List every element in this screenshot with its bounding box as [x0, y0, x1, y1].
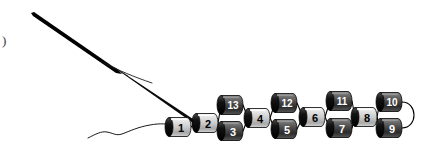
nodes-layer: 12133412561178109	[0, 0, 425, 151]
node-cap	[271, 120, 279, 139]
node-12[interactable]: 12	[271, 94, 297, 113]
node-cap	[192, 114, 200, 133]
node-cap	[376, 93, 384, 112]
node-cap	[351, 108, 359, 127]
node-7[interactable]: 7	[326, 119, 352, 138]
node-cap	[165, 118, 173, 137]
node-2[interactable]: 2	[192, 114, 218, 133]
polymer-chain-diagram: )	[0, 0, 425, 151]
node-13[interactable]: 13	[217, 96, 243, 115]
node-cap	[376, 119, 384, 138]
node-cap	[244, 109, 252, 128]
node-cap	[299, 108, 307, 127]
node-11[interactable]: 11	[326, 92, 352, 111]
node-cap	[217, 122, 225, 141]
node-10[interactable]: 10	[376, 93, 402, 112]
node-shapes: 12133412561178109	[165, 92, 402, 141]
node-cap	[326, 92, 334, 111]
node-1[interactable]: 1	[165, 118, 191, 137]
node-cap	[217, 96, 225, 115]
node-8[interactable]: 8	[351, 108, 377, 127]
node-5[interactable]: 5	[271, 120, 297, 139]
node-cap	[326, 119, 334, 138]
node-cap	[271, 94, 279, 113]
node-4[interactable]: 4	[244, 109, 270, 128]
node-6[interactable]: 6	[299, 108, 325, 127]
node-9[interactable]: 9	[376, 119, 402, 138]
node-3[interactable]: 3	[217, 122, 243, 141]
